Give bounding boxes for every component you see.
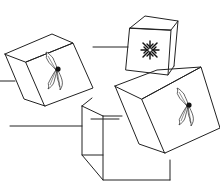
snowflake-icon (141, 41, 159, 59)
box-top (126, 16, 178, 75)
box-left (5, 34, 93, 106)
holly-icon (46, 52, 62, 90)
patent-drawing-figure: Line drawing of four tumbling gift boxes… (0, 0, 220, 182)
box-right (115, 67, 220, 153)
box-center (82, 98, 170, 180)
holly-icon (177, 88, 193, 126)
